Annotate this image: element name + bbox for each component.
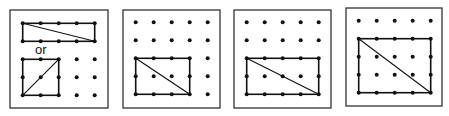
peg-dot xyxy=(93,75,97,79)
panel-2 xyxy=(123,10,220,108)
peg-dot xyxy=(317,74,321,78)
peg-dot xyxy=(263,56,267,60)
peg-dot xyxy=(393,37,397,41)
peg-dot xyxy=(281,56,285,60)
peg-dot xyxy=(134,20,138,24)
peg-dot xyxy=(245,38,249,42)
peg-dot xyxy=(429,19,433,23)
peg-dot xyxy=(299,38,303,42)
peg-dot xyxy=(93,21,97,25)
peg-dot xyxy=(206,56,210,60)
peg-dot xyxy=(93,57,97,61)
panel-4 xyxy=(346,8,442,106)
peg-dot xyxy=(188,92,192,96)
peg-dot xyxy=(134,38,138,42)
peg-dot xyxy=(317,56,321,60)
peg-dot xyxy=(152,38,156,42)
peg-dot xyxy=(245,74,249,78)
peg-dot xyxy=(152,74,156,78)
peg-dot xyxy=(263,38,267,42)
peg-dot xyxy=(393,91,397,95)
peg-dot xyxy=(21,93,25,97)
peg-dot xyxy=(357,91,361,95)
peg-dot xyxy=(152,92,156,96)
peg-dot xyxy=(263,74,267,78)
peg-dot xyxy=(299,20,303,24)
peg-dot xyxy=(393,55,397,59)
peg-dot xyxy=(429,73,433,77)
peg-dot xyxy=(263,20,267,24)
peg-dot xyxy=(357,37,361,41)
diagonal-line xyxy=(23,23,95,41)
peg-dot xyxy=(411,73,415,77)
peg-dot xyxy=(206,92,210,96)
peg-dot xyxy=(357,55,361,59)
peg-dot xyxy=(152,20,156,24)
peg-dot xyxy=(170,92,174,96)
peg-dot xyxy=(281,92,285,96)
peg-dot xyxy=(21,21,25,25)
peg-dot xyxy=(188,20,192,24)
peg-dot xyxy=(317,92,321,96)
peg-dot xyxy=(170,38,174,42)
geoboard-figure: or xyxy=(0,0,449,116)
peg-dot xyxy=(75,57,79,61)
peg-dot xyxy=(75,75,79,79)
peg-dot xyxy=(134,92,138,96)
peg-dot xyxy=(57,39,61,43)
peg-dot xyxy=(93,39,97,43)
diagonal-line xyxy=(359,39,431,93)
peg-dot xyxy=(75,39,79,43)
peg-dot xyxy=(357,19,361,23)
peg-dot xyxy=(152,56,156,60)
peg-dot xyxy=(57,57,61,61)
peg-dot xyxy=(245,56,249,60)
peg-dot xyxy=(245,92,249,96)
peg-dot xyxy=(39,57,43,61)
peg-dot xyxy=(281,38,285,42)
peg-dot xyxy=(39,93,43,97)
peg-dot xyxy=(411,55,415,59)
peg-dot xyxy=(134,56,138,60)
peg-dot xyxy=(206,38,210,42)
peg-dot xyxy=(429,91,433,95)
peg-dot xyxy=(317,38,321,42)
panel-1: or xyxy=(10,10,108,108)
peg-dot xyxy=(263,92,267,96)
peg-dot xyxy=(357,73,361,77)
peg-dot xyxy=(411,91,415,95)
peg-dot xyxy=(411,37,415,41)
peg-dot xyxy=(75,93,79,97)
peg-dot xyxy=(57,21,61,25)
peg-dot xyxy=(57,75,61,79)
peg-dot xyxy=(375,19,379,23)
peg-dot xyxy=(245,20,249,24)
peg-dot xyxy=(170,74,174,78)
peg-dot xyxy=(21,57,25,61)
peg-dot xyxy=(39,75,43,79)
diagonal-line xyxy=(136,58,190,94)
peg-dot xyxy=(299,56,303,60)
peg-dot xyxy=(317,20,321,24)
peg-dot xyxy=(57,93,61,97)
peg-dot xyxy=(281,74,285,78)
peg-dot xyxy=(393,73,397,77)
peg-dot xyxy=(170,20,174,24)
peg-dot xyxy=(39,21,43,25)
or-label: or xyxy=(35,42,47,57)
peg-dot xyxy=(188,56,192,60)
peg-dot xyxy=(411,19,415,23)
peg-dot xyxy=(206,20,210,24)
peg-dot xyxy=(375,73,379,77)
peg-dot xyxy=(21,75,25,79)
peg-dot xyxy=(375,91,379,95)
panel-3 xyxy=(234,10,331,108)
peg-dot xyxy=(170,56,174,60)
peg-dot xyxy=(393,19,397,23)
peg-dot xyxy=(429,55,433,59)
peg-dot xyxy=(134,74,138,78)
peg-dot xyxy=(299,92,303,96)
peg-dot xyxy=(75,21,79,25)
peg-dot xyxy=(281,20,285,24)
peg-dot xyxy=(188,38,192,42)
